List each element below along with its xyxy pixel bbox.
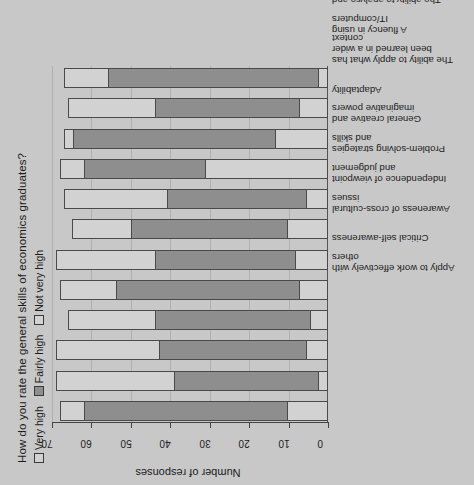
bar-group <box>52 66 328 423</box>
category-label: General creative and imaginative powers <box>332 103 462 125</box>
rotated-figure-wrapper: How do you rate the general skills of ec… <box>0 0 474 485</box>
category-label: Problem-solving strategies and skills <box>332 133 462 155</box>
category-labels: Apply to work effectively with othersCri… <box>332 66 472 423</box>
bar-segment-fairly-high <box>108 69 319 87</box>
axis-tick <box>52 423 53 428</box>
bar-segment-not-very-high <box>65 190 167 208</box>
category-label: Independence of viewpoint and judgement <box>332 163 462 185</box>
category-label: The ability to apply what has been learn… <box>332 33 462 66</box>
axis-tick-label: 70 <box>42 438 62 449</box>
chart-title: How do you rate the general skills of ec… <box>16 153 28 463</box>
axis-tick <box>170 423 171 428</box>
bar-segment-very-high <box>288 220 327 238</box>
bar-segment-very-high <box>319 69 327 87</box>
bar-segment-fairly-high <box>73 130 276 148</box>
bar-segment-very-high <box>300 281 327 299</box>
category-label: A fluency in using IT/computers <box>332 14 462 36</box>
bar-segment-fairly-high <box>84 160 205 178</box>
axis-tick <box>328 423 329 428</box>
bar-segment-not-very-high <box>69 311 155 329</box>
legend-swatch-fairly-high <box>34 386 44 396</box>
bar[interactable] <box>72 219 328 239</box>
axis-tick-label: 40 <box>160 438 180 449</box>
bar-segment-very-high <box>319 372 327 390</box>
bar-segment-fairly-high <box>155 311 312 329</box>
bar-segment-very-high <box>311 311 327 329</box>
category-label: Adaptability <box>332 85 462 96</box>
axis-tick-label: 30 <box>199 438 219 449</box>
axis-tick-label: 50 <box>120 438 140 449</box>
bar[interactable] <box>68 310 328 330</box>
bar[interactable] <box>56 371 328 391</box>
axis-tick <box>249 423 250 428</box>
axis-tick-label: 0 <box>318 438 338 449</box>
category-label: The ability to analyse and interpret qua… <box>332 0 462 6</box>
bar-segment-not-very-high <box>57 251 155 269</box>
bar-segment-fairly-high <box>167 190 308 208</box>
bar[interactable] <box>56 340 328 360</box>
bar-segment-very-high <box>276 130 327 148</box>
bar-segment-very-high <box>288 402 327 420</box>
axis-tick <box>131 423 132 428</box>
axis-tick <box>91 423 92 428</box>
axis-tick-label: 60 <box>81 438 101 449</box>
value-axis <box>52 422 329 423</box>
bar[interactable] <box>64 129 328 149</box>
bar-segment-not-very-high <box>65 69 108 87</box>
bar[interactable] <box>64 189 328 209</box>
axis-tick <box>289 423 290 428</box>
legend-swatch-very-high <box>34 453 44 463</box>
bar-segment-very-high <box>300 99 327 117</box>
chart-figure: How do you rate the general skills of ec… <box>0 0 474 485</box>
bar[interactable] <box>60 401 328 421</box>
axis-tick-label: 20 <box>239 438 259 449</box>
bar-segment-not-very-high <box>57 372 174 390</box>
bar-segment-not-very-high <box>61 160 84 178</box>
bar-segment-fairly-high <box>84 402 288 420</box>
axis-tick <box>210 423 211 428</box>
bar-segment-very-high <box>206 160 327 178</box>
legend-label-not-very-high: Not very high <box>33 250 45 312</box>
legend-label-fairly-high: Fairly high <box>33 335 45 383</box>
bar-segment-fairly-high <box>155 251 296 269</box>
bar-segment-fairly-high <box>155 99 300 117</box>
bar[interactable] <box>60 280 328 300</box>
axis-tick-label: 10 <box>278 438 298 449</box>
bar-segment-fairly-high <box>159 341 308 359</box>
bar-segment-very-high <box>307 341 327 359</box>
axis-title: Number of responses <box>118 467 258 479</box>
plot-area <box>52 66 328 423</box>
legend-swatch-not-very-high <box>34 315 44 325</box>
bar-segment-not-very-high <box>57 341 159 359</box>
legend-item-very-high: Very high <box>33 406 45 463</box>
bar-segment-fairly-high <box>116 281 300 299</box>
bar-segment-not-very-high <box>65 130 73 148</box>
legend-item-not-very-high: Not very high <box>33 250 45 325</box>
bar-segment-not-very-high <box>73 220 132 238</box>
bar[interactable] <box>60 159 328 179</box>
category-label: Critical self-awareness <box>332 233 462 244</box>
bar[interactable] <box>68 98 328 118</box>
bar-segment-fairly-high <box>131 220 287 238</box>
legend-item-fairly-high: Fairly high <box>33 335 45 396</box>
bar-segment-not-very-high <box>61 281 116 299</box>
bar-segment-not-very-high <box>61 402 84 420</box>
bar-segment-not-very-high <box>69 99 155 117</box>
bar-segment-fairly-high <box>174 372 319 390</box>
category-label: Awareness of cross-cultural issues <box>332 193 462 215</box>
category-label: Apply to work effectively with others <box>332 252 462 274</box>
bar[interactable] <box>64 68 328 88</box>
bar[interactable] <box>56 250 328 270</box>
bar-segment-very-high <box>296 251 327 269</box>
chart-legend: Very high Fairly high Not very high <box>33 250 45 463</box>
bar-segment-very-high <box>307 190 327 208</box>
